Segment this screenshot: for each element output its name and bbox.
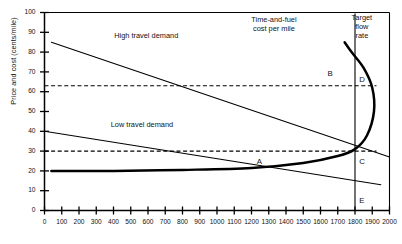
y-axis-tick-label: 70: [12, 68, 36, 75]
point-d-label: D: [359, 75, 365, 84]
annotation-line: flow: [331, 22, 393, 31]
high-travel-demand-curve: [51, 42, 389, 157]
y-axis-tick-label: 100: [12, 8, 36, 15]
y-axis-tick-label: 0: [12, 206, 36, 213]
annotation-line: Time-and-fuel: [243, 15, 305, 24]
backward-bending-cost-curve-chart: Price and cost (cents/mile) 010203040506…: [0, 0, 402, 244]
high-travel-demand-label: High travel demand: [114, 31, 192, 40]
low-travel-demand-label: Low travel demand: [111, 120, 189, 129]
annotation-line: Target: [331, 13, 393, 22]
annotation-line: Low travel demand: [111, 120, 189, 129]
x-axis-tick-label: 2000: [377, 218, 402, 225]
point-e-label: E: [359, 196, 364, 205]
reference-lines-layer: [45, 14, 377, 211]
y-axis-tick-label: 90: [12, 28, 36, 35]
target-flow-rate-label: Targetflowrate: [331, 13, 393, 40]
y-axis-tick-label: 10: [12, 186, 36, 193]
y-axis-tick-label: 30: [12, 147, 36, 154]
annotation-line: High travel demand: [114, 31, 192, 40]
point-b-label: B: [327, 69, 332, 78]
data-series-layer: [45, 42, 390, 185]
point-c-label: C: [359, 157, 365, 166]
y-axis-tick-label: 50: [12, 107, 36, 114]
time-and-fuel-cost-label: Time-and-fuelcost per mile: [243, 15, 305, 33]
y-axis-tick-label: 40: [12, 127, 36, 134]
point-a-label: A: [257, 157, 262, 166]
y-axis-tick-label: 60: [12, 87, 36, 94]
annotation-line: rate: [331, 31, 393, 40]
y-axis-tick-label: 20: [12, 167, 36, 174]
axes-layer: [45, 13, 390, 211]
ticks-layer: [40, 13, 390, 215]
y-axis-tick-label: 80: [12, 48, 36, 55]
annotation-line: cost per mile: [243, 24, 305, 33]
